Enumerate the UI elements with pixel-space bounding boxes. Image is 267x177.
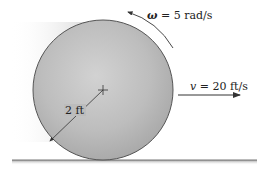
radius-label: 2 ft [65, 104, 85, 117]
rolling-disk-diagram: 2 ft ω = 5 rad/s v = 20 ft/s [0, 0, 267, 177]
angular-velocity-label: ω = 5 rad/s [147, 9, 213, 22]
ground-surface [12, 160, 257, 165]
velocity-label: v = 20 ft/s [190, 80, 248, 93]
